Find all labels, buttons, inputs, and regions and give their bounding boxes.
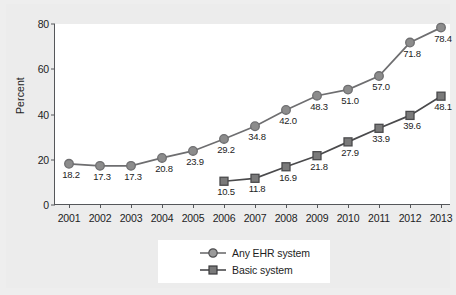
x-axis-tick-label: 2002 bbox=[89, 212, 112, 224]
series-line bbox=[69, 28, 441, 166]
legend-label: Basic system bbox=[232, 264, 293, 276]
data-point-label: 18.2 bbox=[62, 169, 79, 180]
x-axis-tick-label: 2007 bbox=[244, 212, 267, 224]
y-axis-tick-label: 40 bbox=[38, 109, 49, 121]
plot-area: 0204060802001200220032004200520062007200… bbox=[54, 24, 450, 205]
data-point-circle bbox=[437, 23, 446, 32]
x-axis-tick-label: 2008 bbox=[275, 212, 298, 224]
data-point-circle bbox=[158, 154, 167, 163]
data-point-square bbox=[251, 174, 259, 182]
x-axis-tick-label: 2006 bbox=[213, 212, 236, 224]
data-point-label: 20.8 bbox=[155, 163, 172, 174]
chart-canvas: Percent 02040608020012002200320042005200… bbox=[6, 4, 450, 288]
x-axis-tick bbox=[224, 204, 225, 208]
x-axis-tick-label: 2004 bbox=[151, 212, 174, 224]
x-axis-tick bbox=[317, 204, 318, 208]
y-axis-tick-label: 20 bbox=[38, 154, 49, 166]
x-axis-tick bbox=[379, 204, 380, 208]
data-point-square bbox=[220, 177, 228, 185]
data-point-label: 29.2 bbox=[217, 144, 234, 155]
data-point-square bbox=[375, 124, 383, 132]
x-axis-tick bbox=[286, 204, 287, 208]
x-axis-tick bbox=[441, 204, 442, 208]
x-axis-tick bbox=[193, 204, 194, 208]
data-point-label: 34.8 bbox=[248, 131, 265, 142]
data-point-label: 27.9 bbox=[341, 147, 358, 158]
x-axis-tick bbox=[348, 204, 349, 208]
x-axis-tick-label: 2011 bbox=[368, 212, 390, 224]
chart-figure: Percent 02040608020012002200320042005200… bbox=[0, 0, 456, 295]
data-point-circle bbox=[127, 162, 136, 171]
data-point-label: 21.8 bbox=[310, 161, 327, 172]
data-point-circle bbox=[251, 122, 260, 131]
legend-item-basic-system: Basic system bbox=[164, 261, 324, 278]
data-point-circle bbox=[65, 160, 74, 169]
data-point-circle bbox=[96, 162, 105, 171]
y-axis-title: Percent bbox=[14, 77, 26, 114]
data-point-label: 33.9 bbox=[372, 133, 389, 144]
data-point-label: 42.0 bbox=[279, 115, 296, 126]
legend-label: Any EHR system bbox=[232, 247, 310, 259]
legend-square-marker-icon bbox=[200, 264, 226, 276]
data-point-circle bbox=[375, 72, 384, 81]
data-point-label: 23.9 bbox=[186, 156, 203, 167]
data-point-label: 11.8 bbox=[249, 183, 266, 194]
data-point-label: 71.8 bbox=[403, 48, 420, 59]
data-point-label: 48.1 bbox=[434, 101, 451, 112]
data-point-square bbox=[406, 111, 414, 119]
x-axis-tick-label: 2012 bbox=[399, 212, 422, 224]
y-axis-tick bbox=[51, 24, 55, 25]
x-axis-tick-label: 2001 bbox=[58, 212, 81, 224]
data-point-square bbox=[313, 152, 321, 160]
x-axis-tick bbox=[162, 204, 163, 208]
data-point-circle bbox=[313, 91, 322, 100]
data-point-label: 17.3 bbox=[124, 171, 141, 182]
data-point-label: 17.3 bbox=[93, 171, 110, 182]
y-axis-tick bbox=[51, 69, 55, 70]
x-axis-tick-label: 2003 bbox=[120, 212, 143, 224]
data-point-circle bbox=[220, 135, 229, 144]
data-point-label: 48.3 bbox=[310, 101, 327, 112]
data-point-label: 39.6 bbox=[403, 120, 420, 131]
y-axis-tick-label: 60 bbox=[38, 63, 49, 75]
data-point-square bbox=[282, 163, 290, 171]
data-point-circle bbox=[282, 106, 291, 115]
data-point-label: 16.9 bbox=[279, 172, 296, 183]
x-axis-tick bbox=[255, 204, 256, 208]
data-point-circle bbox=[406, 38, 415, 47]
y-axis-tick bbox=[51, 205, 55, 206]
data-point-label: 10.5 bbox=[217, 186, 234, 197]
y-axis-tick-label: 0 bbox=[43, 199, 49, 211]
y-axis-tick bbox=[51, 114, 55, 115]
x-axis-tick bbox=[100, 204, 101, 208]
x-axis-tick-label: 2010 bbox=[337, 212, 360, 224]
data-point-circle bbox=[189, 147, 198, 156]
data-point-label: 78.4 bbox=[434, 33, 451, 44]
plot-svg bbox=[55, 24, 451, 205]
chart-legend: Any EHR system Basic system bbox=[158, 240, 330, 283]
data-point-square bbox=[437, 92, 445, 100]
x-axis-tick bbox=[131, 204, 132, 208]
x-axis-tick bbox=[69, 204, 70, 208]
legend-circle-marker-icon bbox=[200, 247, 226, 259]
y-axis-tick bbox=[51, 159, 55, 160]
x-axis-tick-label: 2013 bbox=[430, 212, 453, 224]
x-axis-tick-label: 2009 bbox=[306, 212, 329, 224]
legend-item-any-ehr-system: Any EHR system bbox=[164, 244, 324, 261]
data-point-label: 57.0 bbox=[372, 81, 389, 92]
y-axis-tick-label: 80 bbox=[38, 18, 49, 30]
data-point-circle bbox=[344, 85, 353, 94]
x-axis-tick-label: 2005 bbox=[182, 212, 205, 224]
x-axis-tick bbox=[410, 204, 411, 208]
data-point-square bbox=[344, 138, 352, 146]
data-point-label: 51.0 bbox=[341, 95, 358, 106]
